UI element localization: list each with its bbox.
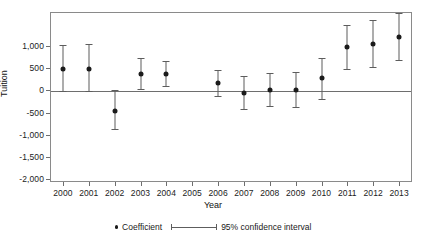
coefficient-point [345,45,350,50]
coefficient-point [164,71,169,76]
plot-area [50,12,412,182]
coefficient-point [112,108,117,113]
y-tick-mark [46,179,50,180]
zero-reference-line [51,91,411,92]
y-tick-mark [46,90,50,91]
coefficient-point [293,87,298,92]
y-tick-mark [46,157,50,158]
confidence-interval-cap [111,129,118,130]
confidence-interval-cap [59,91,66,92]
x-tick-label: 2006 [208,188,227,198]
coefficient-point [241,90,246,95]
confidence-interval-cap [292,107,299,108]
y-tick-label: -1,500 [4,152,44,162]
confidence-interval-cap [396,13,403,14]
confidence-interval-cap [266,73,273,74]
x-tick-mark [322,182,323,186]
x-tick-mark [244,182,245,186]
x-tick-label: 2001 [79,188,98,198]
x-tick-mark [192,182,193,186]
confidence-interval-cap [266,106,273,107]
x-tick-label: 2008 [260,188,279,198]
x-tick-mark [296,182,297,186]
x-tick-label: 2012 [364,188,383,198]
coefficient-point [267,87,272,92]
x-tick-label: 2007 [234,188,253,198]
x-tick-label: 2011 [338,188,357,198]
confidence-interval-cap [344,25,351,26]
legend-item-coefficient: Coefficient [115,222,163,232]
coefficient-marker-icon [115,225,119,229]
confidence-interval-cap [137,58,144,59]
x-tick-label: 2003 [131,188,150,198]
x-tick-mark [270,182,271,186]
y-tick-label: -1,000 [4,130,44,140]
y-tick-label: 500 [4,63,44,73]
x-tick-label: 2010 [312,188,331,198]
x-tick-label: 2002 [105,188,124,198]
x-axis-title: Year [0,200,426,210]
y-tick-mark [46,46,50,47]
coefficient-point [319,76,324,81]
x-tick-mark [399,182,400,186]
x-tick-label: 2009 [286,188,305,198]
coefficient-point [138,71,143,76]
confidence-interval-cap [215,70,222,71]
y-tick-label: 0 [4,85,44,95]
confidence-interval-cap [59,45,66,46]
confidence-interval-cap [344,69,351,70]
confidence-interval-cap [292,72,299,73]
confidence-interval-cap [240,76,247,77]
y-tick-mark [46,135,50,136]
x-tick-mark [63,182,64,186]
y-tick-label: -500 [4,108,44,118]
legend-label-confidence-interval: 95% confidence interval [221,222,311,232]
coefficient-plot-figure: Tuition Year 1,0005000-500-1,000-1,500-2… [0,0,426,242]
confidence-interval-cap [163,61,170,62]
chart-legend: Coefficient 95% confidence interval [0,222,426,232]
x-tick-mark [141,182,142,186]
x-tick-mark [89,182,90,186]
confidence-interval-cap [396,60,403,61]
coefficient-point [397,34,402,39]
coefficient-point [86,67,91,72]
coefficient-point [60,67,65,72]
confidence-interval-cap [318,99,325,100]
coefficient-point [371,41,376,46]
x-tick-mark [115,182,116,186]
x-tick-mark [347,182,348,186]
confidence-interval-cap [318,58,325,59]
confidence-interval-cap [85,44,92,45]
x-tick-label: 2013 [389,188,408,198]
x-tick-mark [218,182,219,186]
y-tick-label: 1,000 [4,41,44,51]
confidence-interval-cap [240,109,247,110]
confidence-interval-cap [163,86,170,87]
x-tick-label: 2004 [157,188,176,198]
legend-item-confidence-interval: 95% confidence interval [171,222,311,232]
confidence-interval-cap [85,91,92,92]
confidence-interval-cap [370,67,377,68]
x-tick-mark [166,182,167,186]
x-tick-label: 2000 [53,188,72,198]
confidence-interval-cap [137,89,144,90]
confidence-interval-cap [111,90,118,91]
confidence-interval-cap [215,96,222,97]
x-tick-mark [373,182,374,186]
y-tick-mark [46,113,50,114]
x-tick-label: 2005 [183,188,202,198]
legend-label-coefficient: Coefficient [122,222,162,232]
y-tick-mark [46,68,50,69]
confidence-interval-cap [370,20,377,21]
confidence-interval-icon [171,224,217,231]
coefficient-point [216,80,221,85]
y-tick-label: -2,000 [4,174,44,184]
